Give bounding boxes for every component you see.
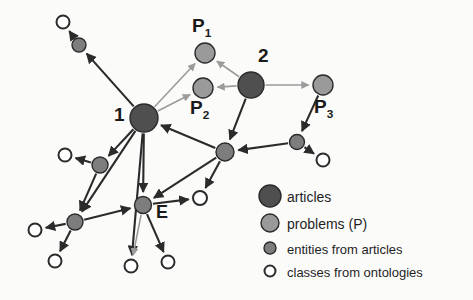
edge-a1-to-e4 xyxy=(82,131,136,212)
figure-canvas: 1 2 P1 P2 P3 E articles problems (P) ent… xyxy=(0,0,473,300)
node-label-article-2: 2 xyxy=(258,46,269,65)
graph-node-classes-c1[interactable] xyxy=(57,16,70,29)
edge-e2-to-c2 xyxy=(304,147,314,154)
graph-node-classes-c4[interactable] xyxy=(59,149,72,162)
graph-node-entities-e2[interactable] xyxy=(290,135,305,150)
edge-h1-to-c3 xyxy=(205,161,219,188)
edge-e1-to-c1 xyxy=(69,31,74,38)
edge-a2-to-p2 xyxy=(217,86,236,87)
graph-node-problems-p3[interactable] xyxy=(313,75,333,95)
graph-node-entities-eE[interactable] xyxy=(135,197,152,214)
graph-node-articles-a1[interactable] xyxy=(130,104,158,132)
graph-node-entities-e4[interactable] xyxy=(67,214,83,230)
edge-e2-to-h1 xyxy=(238,143,288,150)
edge-a1-to-eE xyxy=(143,133,144,192)
edge-h1-to-eE xyxy=(154,158,216,198)
graph-node-classes-c6[interactable] xyxy=(49,255,62,268)
legend-label-classes: classes from ontologies xyxy=(287,266,423,279)
node-label-article-1: 1 xyxy=(114,105,125,124)
edge-a1-to-p1 xyxy=(155,64,195,107)
p3-base: P xyxy=(314,96,327,117)
node-label-problem-p3: P3 xyxy=(314,97,333,120)
legend-markers xyxy=(259,185,281,277)
p1-subscript: 1 xyxy=(205,26,212,39)
edge-e4-to-eE xyxy=(84,208,130,220)
node-label-entity-e: E xyxy=(156,203,168,221)
legend-label-articles: articles xyxy=(287,190,331,204)
graph-node-classes-c3[interactable] xyxy=(193,191,207,205)
legend-label-problems: problems (P) xyxy=(287,217,367,231)
p2-subscript: 2 xyxy=(203,108,210,121)
p2-base: P xyxy=(190,97,203,118)
legend-swatch-problems xyxy=(261,214,279,232)
p3-subscript: 3 xyxy=(327,107,334,120)
graph-node-articles-a2[interactable] xyxy=(238,72,264,98)
node-label-problem-p1: P1 xyxy=(192,16,211,39)
edge-a2-to-h1 xyxy=(230,99,246,140)
legend-swatch-classes xyxy=(265,266,276,277)
graph-node-entities-e3[interactable] xyxy=(92,157,108,173)
legend-swatch-articles xyxy=(259,185,281,207)
graph-node-entities-h1[interactable] xyxy=(216,143,234,161)
node-label-problem-p2: P2 xyxy=(190,98,209,121)
edge-a2-to-p1 xyxy=(217,61,239,76)
legend-label-entities: entities from articles xyxy=(287,243,403,256)
graph-node-classes-c5[interactable] xyxy=(29,224,42,237)
graph-node-problems-p2[interactable] xyxy=(193,78,213,98)
edge-e4-to-c6 xyxy=(60,230,71,251)
edge-e4-to-c5 xyxy=(46,224,66,228)
graph-node-classes-c2[interactable] xyxy=(317,154,330,167)
graph-node-classes-c8[interactable] xyxy=(162,256,175,269)
p1-base: P xyxy=(192,15,205,36)
graph-node-classes-c7[interactable] xyxy=(125,260,138,273)
legend-swatch-entities xyxy=(264,242,276,254)
edge-e3-to-c4 xyxy=(76,158,91,162)
graph-node-entities-e1[interactable] xyxy=(72,38,86,52)
graph-node-problems-p1[interactable] xyxy=(195,43,215,63)
edge-h1-to-a1 xyxy=(161,125,215,148)
edge-a1-to-e1 xyxy=(87,54,134,107)
